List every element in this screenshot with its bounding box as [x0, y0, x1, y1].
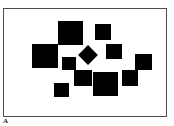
square-lower-mid [74, 70, 92, 86]
square-bottom-center-large [93, 72, 118, 96]
square-mid-left-large [32, 44, 58, 68]
square-bottom-left-small [54, 83, 69, 97]
square-top-right-small [95, 24, 111, 40]
square-center-small [62, 57, 76, 70]
shape-layer [0, 0, 174, 126]
square-right-lower [122, 70, 138, 86]
square-mid-right-medium [106, 44, 122, 59]
figure-root: A [0, 0, 174, 126]
square-top-center-large [58, 21, 83, 45]
corner-annotation-label: A [3, 118, 8, 125]
square-far-right-medium [135, 54, 152, 70]
diamond-center [78, 45, 98, 65]
